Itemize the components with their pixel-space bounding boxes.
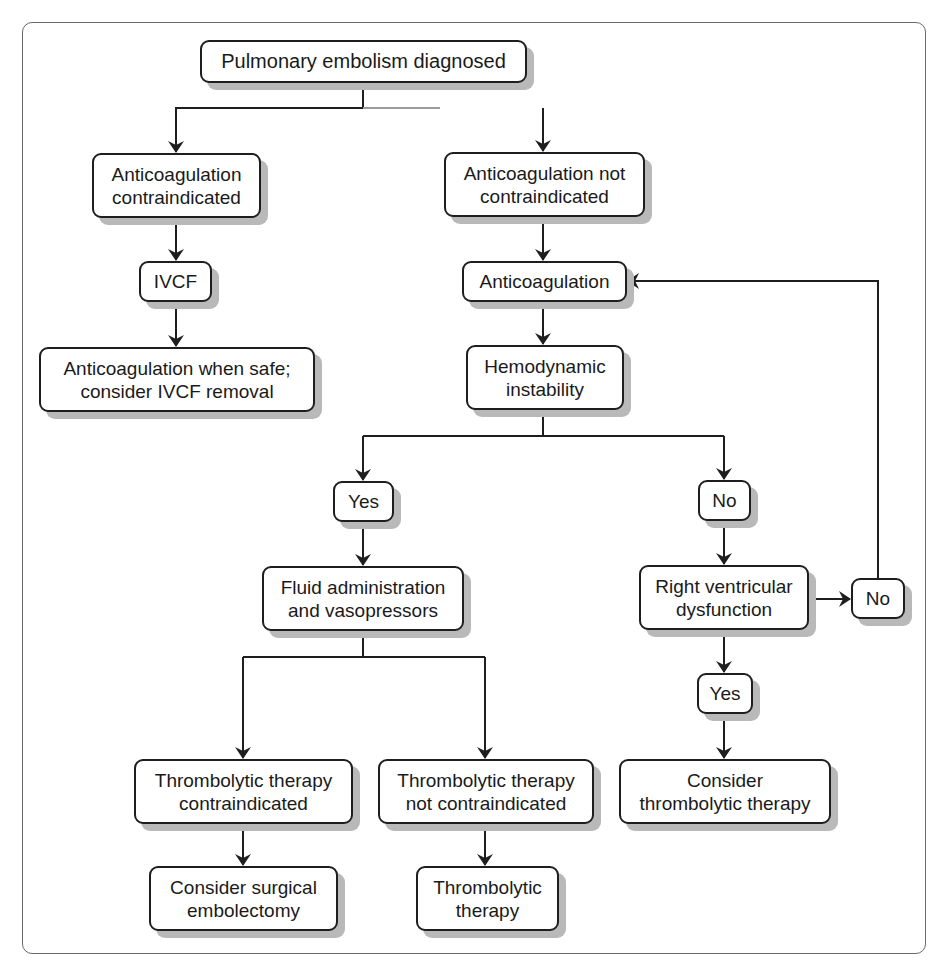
node-anticoagulation: Anticoagulation — [462, 261, 627, 302]
node-no-rv: No — [851, 578, 905, 619]
node-rv-dysfunction: Right ventricular dysfunction — [639, 565, 809, 630]
node-consider-thrombolytic: Consider thrombolytic therapy — [619, 759, 831, 824]
node-hemodynamic-instability: Hemodynamic instability — [466, 345, 624, 410]
node-anticoag-not-contraindicated: Anticoagulation not contraindicated — [444, 152, 645, 217]
node-pe-diagnosed: Pulmonary embolism diagnosed — [200, 40, 527, 83]
node-thrombolytic-contraindicated: Thrombolytic therapy contraindicated — [134, 759, 353, 824]
edge-no-loop-to-anticoag — [628, 281, 878, 578]
node-anticoag-when-safe: Anticoagulation when safe; consider IVCF… — [39, 347, 315, 412]
connector-layer — [0, 0, 942, 972]
node-anticoag-contraindicated: Anticoagulation contraindicated — [92, 153, 261, 218]
node-thrombolytic-not-contraindicated: Thrombolytic therapy not contraindicated — [378, 759, 594, 824]
node-fluid-vasopressors: Fluid administration and vasopressors — [262, 566, 464, 631]
edge-hemo-split — [363, 410, 724, 436]
node-thrombolytic-therapy: Thrombolytic therapy — [416, 866, 559, 931]
node-yes-rv: Yes — [697, 673, 753, 714]
node-surgical-embolectomy: Consider surgical embolectomy — [149, 866, 338, 931]
edge-pe-to-contra — [176, 108, 363, 152]
node-ivcf: IVCF — [139, 261, 212, 302]
edge-fluid-split — [243, 631, 485, 657]
node-yes-instability: Yes — [333, 481, 394, 522]
node-no-instability: No — [698, 480, 751, 521]
